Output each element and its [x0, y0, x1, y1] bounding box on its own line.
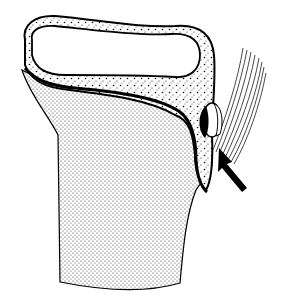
medullary-cavity [32, 26, 200, 77]
pointer-arrow-icon [218, 148, 247, 192]
anatomical-figure [0, 0, 281, 299]
tendon-fibers [213, 48, 266, 164]
